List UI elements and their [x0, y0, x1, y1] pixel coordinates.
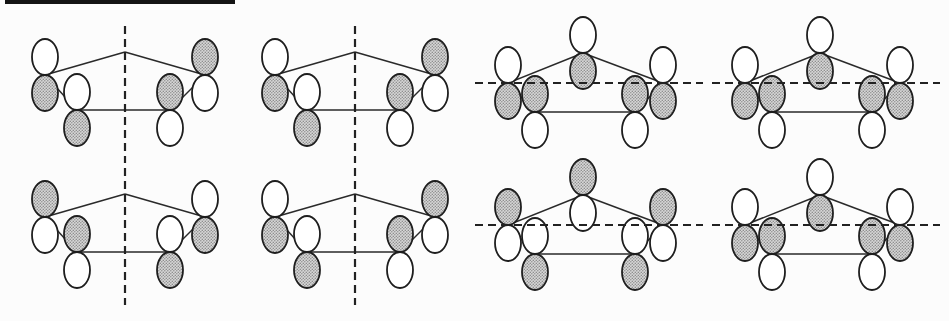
inner-left-top-lobe-shaded: [759, 218, 785, 254]
inner-right-top-lobe-unshaded: [622, 218, 648, 254]
mo-diagram-row2-col4: [712, 159, 940, 290]
apex-top-lobe-shaded: [570, 159, 596, 195]
inner-left-bottom-lobe-unshaded: [759, 254, 785, 290]
outer-left-bottom-lobe-shaded: [262, 217, 288, 253]
outer-right-bottom-lobe-shaded: [192, 217, 218, 253]
inner-left-bottom-lobe-unshaded: [522, 112, 548, 148]
apex-top-lobe-unshaded: [807, 17, 833, 53]
figure-canvas: [0, 0, 949, 321]
outer-left-top-lobe-unshaded: [732, 189, 758, 225]
mo-diagram-row1-col2: [262, 26, 448, 163]
inner-left-top-lobe-unshaded: [294, 74, 320, 110]
outer-right-bottom-lobe-unshaded: [650, 225, 676, 261]
inner-right-bottom-lobe-unshaded: [387, 252, 413, 288]
outer-right-bottom-lobe-unshaded: [422, 75, 448, 111]
outer-left-bottom-lobe-shaded: [262, 75, 288, 111]
outer-right-bottom-lobe-unshaded: [192, 75, 218, 111]
inner-left-bottom-lobe-shaded: [294, 110, 320, 146]
mo-diagram-row2-col3: [475, 159, 703, 290]
outer-left-top-lobe-shaded: [32, 181, 58, 217]
inner-right-top-lobe-shaded: [622, 76, 648, 112]
inner-right-bottom-lobe-unshaded: [157, 110, 183, 146]
outer-left-top-lobe-unshaded: [262, 181, 288, 217]
outer-right-top-lobe-shaded: [650, 189, 676, 225]
apex-top-lobe-unshaded: [807, 159, 833, 195]
inner-left-top-lobe-unshaded: [294, 216, 320, 252]
page-top-rule: [5, 0, 235, 4]
inner-right-bottom-lobe-unshaded: [859, 254, 885, 290]
inner-left-top-lobe-shaded: [522, 76, 548, 112]
outer-right-top-lobe-shaded: [422, 39, 448, 75]
mo-diagram-row1-col4: [712, 17, 940, 148]
mo-diagram-row2-col1: [32, 168, 218, 305]
outer-right-top-lobe-unshaded: [192, 181, 218, 217]
inner-right-bottom-lobe-shaded: [157, 252, 183, 288]
inner-left-bottom-lobe-shaded: [294, 252, 320, 288]
outer-right-top-lobe-unshaded: [650, 47, 676, 83]
diagram-grid: [32, 17, 940, 305]
inner-right-bottom-lobe-shaded: [622, 254, 648, 290]
inner-right-top-lobe-unshaded: [157, 216, 183, 252]
inner-left-top-lobe-unshaded: [522, 218, 548, 254]
outer-right-bottom-lobe-shaded: [650, 83, 676, 119]
outer-right-top-lobe-shaded: [192, 39, 218, 75]
outer-right-top-lobe-unshaded: [887, 189, 913, 225]
inner-right-bottom-lobe-unshaded: [859, 112, 885, 148]
outer-left-top-lobe-unshaded: [32, 39, 58, 75]
inner-left-bottom-lobe-unshaded: [64, 252, 90, 288]
outer-left-bottom-lobe-unshaded: [32, 217, 58, 253]
outer-right-bottom-lobe-unshaded: [422, 217, 448, 253]
outer-left-bottom-lobe-shaded: [495, 83, 521, 119]
inner-left-bottom-lobe-unshaded: [759, 112, 785, 148]
inner-right-top-lobe-shaded: [859, 76, 885, 112]
outer-right-top-lobe-shaded: [422, 181, 448, 217]
outer-left-bottom-lobe-unshaded: [495, 225, 521, 261]
outer-left-top-lobe-shaded: [495, 189, 521, 225]
outer-left-top-lobe-unshaded: [732, 47, 758, 83]
inner-left-bottom-lobe-shaded: [64, 110, 90, 146]
inner-right-top-lobe-shaded: [387, 74, 413, 110]
outer-left-bottom-lobe-shaded: [732, 225, 758, 261]
inner-left-top-lobe-unshaded: [64, 74, 90, 110]
outer-left-bottom-lobe-shaded: [32, 75, 58, 111]
outer-left-top-lobe-unshaded: [495, 47, 521, 83]
outer-left-top-lobe-unshaded: [262, 39, 288, 75]
inner-left-bottom-lobe-shaded: [522, 254, 548, 290]
mo-diagram-row1-col3: [475, 17, 703, 148]
inner-right-bottom-lobe-unshaded: [622, 112, 648, 148]
inner-right-top-lobe-shaded: [157, 74, 183, 110]
inner-right-top-lobe-shaded: [859, 218, 885, 254]
mo-diagram-row2-col2: [262, 168, 448, 305]
mo-diagram-row1-col1: [32, 26, 218, 163]
outer-right-top-lobe-unshaded: [887, 47, 913, 83]
outer-left-bottom-lobe-shaded: [732, 83, 758, 119]
inner-right-top-lobe-shaded: [387, 216, 413, 252]
inner-left-top-lobe-shaded: [759, 76, 785, 112]
outer-right-bottom-lobe-shaded: [887, 225, 913, 261]
inner-right-bottom-lobe-unshaded: [387, 110, 413, 146]
outer-right-bottom-lobe-shaded: [887, 83, 913, 119]
apex-top-lobe-unshaded: [570, 17, 596, 53]
inner-left-top-lobe-shaded: [64, 216, 90, 252]
